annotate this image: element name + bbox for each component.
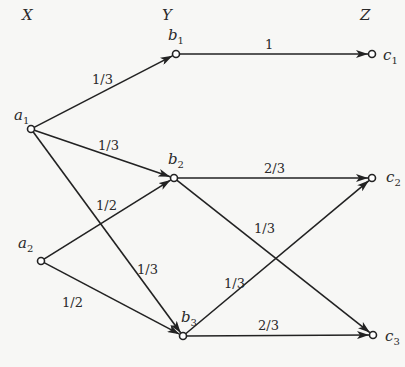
- edge-label-b3-c3: 2/3: [258, 318, 279, 333]
- node-c3: [370, 332, 377, 339]
- channel-diagram: XYZ 1/31/31/31/21/212/31/31/32/3 a1a2b1b…: [0, 0, 405, 367]
- node-b1: [173, 51, 180, 58]
- edge-label-a2-b2: 1/2: [96, 198, 117, 213]
- column-header-x: X: [21, 6, 34, 24]
- node-label-a2: a2: [18, 234, 33, 254]
- edge-label-b1-c1: 1: [265, 37, 273, 52]
- edge-a1-b3: [33, 132, 181, 333]
- node-label-b1: b1: [168, 26, 184, 46]
- column-header-y: Y: [162, 6, 174, 24]
- edge-a1-b1: [34, 56, 172, 128]
- edge-label-b2-c2: 2/3: [264, 161, 285, 176]
- edge-a2-b2: [44, 180, 171, 259]
- column-header-z: Z: [359, 6, 371, 24]
- node-c2: [369, 175, 376, 182]
- node-label-a1: a1: [14, 106, 29, 126]
- column-headers: XYZ: [21, 6, 371, 24]
- node-b2: [171, 175, 178, 182]
- node-a1: [28, 126, 35, 133]
- node-b3: [180, 333, 187, 340]
- edge-label-a1-b1: 1/3: [92, 72, 113, 87]
- edge-label-b2-c3: 1/3: [254, 221, 275, 236]
- node-label-c3: c3: [385, 327, 400, 347]
- edge-b3-c3: [186, 335, 369, 336]
- node-label-c2: c2: [386, 168, 401, 188]
- node-label-c1: c1: [383, 46, 398, 66]
- edge-label-b3-c2: 1/3: [224, 276, 245, 291]
- edge-label-a1-b2: 1/3: [98, 138, 119, 153]
- node-a2: [38, 258, 45, 265]
- edge-labels: 1/31/31/31/21/212/31/31/32/3: [62, 37, 285, 333]
- edge-label-a1-b3: 1/3: [137, 262, 158, 277]
- node-label-b2: b2: [168, 150, 184, 170]
- edge-label-a2-b3: 1/2: [62, 295, 83, 310]
- edges: [33, 54, 370, 336]
- node-c1: [369, 51, 376, 58]
- node-label-b3: b3: [181, 308, 197, 328]
